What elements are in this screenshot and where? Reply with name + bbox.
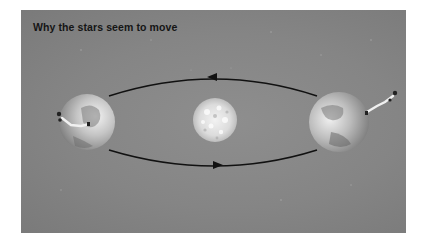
- diagram-panel: Why the stars seem to move: [21, 10, 406, 233]
- observer-right-icon: [365, 91, 397, 115]
- orbit-diagram: [21, 10, 406, 233]
- earth-right-icon: [309, 92, 369, 152]
- sun-icon: [193, 98, 237, 142]
- arrow-right-icon: [213, 161, 223, 169]
